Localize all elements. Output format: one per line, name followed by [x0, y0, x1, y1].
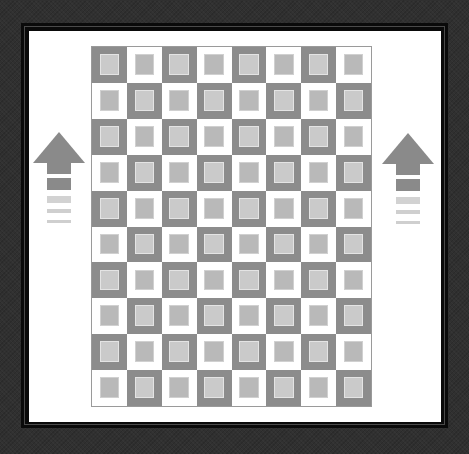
cell-inner-square [100, 341, 120, 362]
grid-cell [162, 370, 197, 406]
grid-cell [162, 262, 197, 298]
cell-inner-square [344, 305, 364, 326]
grid-cell [301, 227, 336, 263]
grid-cell [162, 155, 197, 191]
cell-inner-square [169, 341, 189, 362]
cell-inner-square [274, 126, 294, 147]
grid-cell [197, 334, 232, 370]
grid-cell [197, 298, 232, 334]
grid-cell [266, 370, 301, 406]
cell-inner-square [309, 341, 329, 362]
grid-cell [336, 262, 371, 298]
grid-cell [266, 334, 301, 370]
grid-cell [336, 334, 371, 370]
grid-cell [266, 119, 301, 155]
cell-inner-square [239, 341, 259, 362]
grid-cell [92, 119, 127, 155]
grid-cell [92, 191, 127, 227]
grid-cell [266, 83, 301, 119]
cell-inner-square [100, 162, 120, 183]
grid-cell [336, 298, 371, 334]
cell-inner-square [344, 54, 364, 75]
grid-cell [301, 262, 336, 298]
cell-inner-square [344, 90, 364, 111]
grid-cell [92, 334, 127, 370]
cell-inner-square [344, 341, 364, 362]
grid-cell [266, 47, 301, 83]
cell-inner-square [274, 162, 294, 183]
grid-cell [336, 47, 371, 83]
arrow-head [382, 133, 434, 164]
cell-inner-square [309, 270, 329, 291]
cell-inner-square [274, 377, 294, 398]
cell-inner-square [204, 305, 224, 326]
grid-cell [266, 262, 301, 298]
grid-cell [336, 83, 371, 119]
grid-cell [336, 119, 371, 155]
cell-inner-square [100, 234, 120, 255]
cell-inner-square [344, 198, 364, 219]
cell-inner-square [309, 198, 329, 219]
grid-cell [197, 155, 232, 191]
cell-inner-square [239, 198, 259, 219]
grid-cell [92, 262, 127, 298]
cell-inner-square [204, 198, 224, 219]
grid-cell [162, 334, 197, 370]
grid-cell [162, 47, 197, 83]
grid-cell [92, 155, 127, 191]
cell-inner-square [135, 126, 155, 147]
cell-inner-square [135, 54, 155, 75]
grid-cell [197, 47, 232, 83]
cell-inner-square [239, 270, 259, 291]
grid-cell [301, 155, 336, 191]
grid-cell [336, 155, 371, 191]
grid-cell [232, 227, 267, 263]
grid-cell [266, 227, 301, 263]
cell-inner-square [309, 234, 329, 255]
grid-cell [92, 298, 127, 334]
cell-inner-square [309, 126, 329, 147]
arrow-fade-bar [47, 209, 71, 213]
grid-cell [232, 262, 267, 298]
grid-cell [127, 334, 162, 370]
cell-inner-square [309, 162, 329, 183]
arrow-stem [396, 163, 420, 175]
grid-cell [92, 227, 127, 263]
grid-cell [92, 370, 127, 406]
arrow-fade-bar [47, 220, 71, 223]
grid-cell [301, 83, 336, 119]
grid-cell [127, 191, 162, 227]
grid-cell [127, 155, 162, 191]
grid-cell [232, 119, 267, 155]
cell-inner-square [274, 234, 294, 255]
cell-inner-square [135, 341, 155, 362]
cell-inner-square [204, 54, 224, 75]
cell-inner-square [169, 270, 189, 291]
grid-cell [197, 119, 232, 155]
grid-cell [197, 227, 232, 263]
cell-inner-square [135, 90, 155, 111]
cell-inner-square [169, 162, 189, 183]
grid-cell [92, 83, 127, 119]
cell-inner-square [169, 377, 189, 398]
cell-inner-square [274, 90, 294, 111]
grid-cell [127, 119, 162, 155]
cell-inner-square [169, 198, 189, 219]
cell-inner-square [135, 305, 155, 326]
cell-inner-square [274, 341, 294, 362]
cell-inner-square [100, 270, 120, 291]
arrow-bar [47, 178, 71, 190]
cell-inner-square [169, 54, 189, 75]
arrow-fade-bar [396, 210, 420, 214]
grid-cell [127, 47, 162, 83]
cell-inner-square [100, 54, 120, 75]
grid-cell [301, 298, 336, 334]
cell-inner-square [135, 234, 155, 255]
grid-cell [127, 227, 162, 263]
up-arrow-right-icon [382, 133, 436, 229]
cell-inner-square [100, 305, 120, 326]
cell-inner-square [204, 270, 224, 291]
grid-cell [162, 298, 197, 334]
cell-inner-square [100, 90, 120, 111]
grid-cell [162, 119, 197, 155]
